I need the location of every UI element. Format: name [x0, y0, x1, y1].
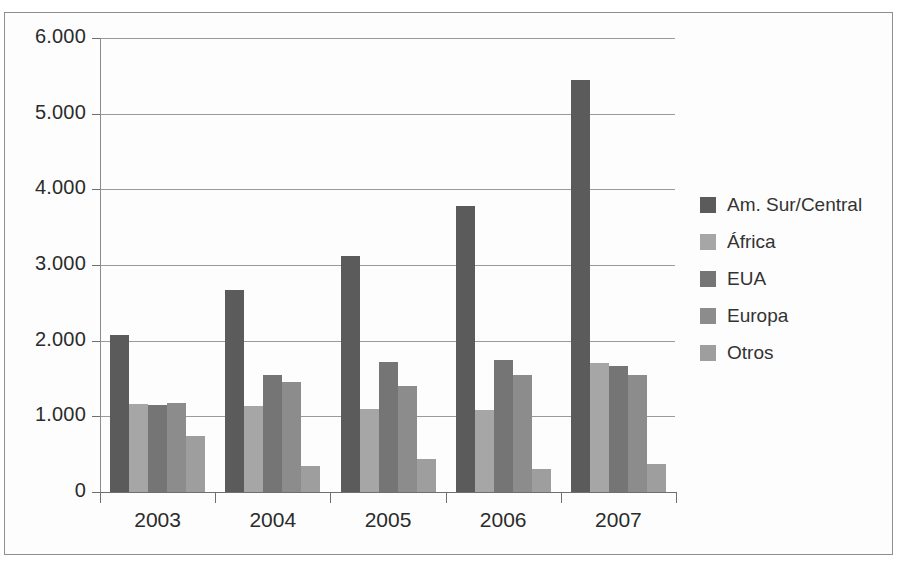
legend-swatch-icon — [700, 271, 716, 287]
x-tick-mark — [330, 492, 331, 503]
bar — [609, 366, 628, 492]
bar — [456, 206, 475, 492]
bar — [225, 290, 244, 492]
bar — [590, 363, 609, 492]
legend-label: Am. Sur/Central — [727, 194, 862, 216]
y-tick-label: 1.000 — [0, 403, 86, 426]
bar — [494, 360, 513, 492]
legend-label: Europa — [727, 305, 788, 327]
bar — [647, 464, 666, 492]
chart-figure: 01.0002.0003.0004.0005.0006.000 20032004… — [0, 0, 903, 565]
legend-swatch-icon — [700, 345, 716, 361]
x-tick-label: 2004 — [218, 508, 328, 532]
bar — [301, 466, 320, 492]
chart-legend: Am. Sur/CentralÁfricaEUAEuropaOtros — [700, 186, 890, 371]
y-tick-label: 2.000 — [0, 328, 86, 351]
bar — [628, 375, 647, 492]
legend-item: Am. Sur/Central — [700, 186, 890, 223]
legend-swatch-icon — [700, 308, 716, 324]
legend-item: Otros — [700, 334, 890, 371]
bar — [244, 406, 263, 492]
legend-swatch-icon — [700, 234, 716, 250]
x-tick-mark — [676, 492, 677, 503]
x-tick-label: 2007 — [563, 508, 673, 532]
legend-label: Otros — [727, 342, 773, 364]
bar — [110, 335, 129, 492]
bar — [398, 386, 417, 492]
bar — [417, 459, 436, 492]
legend-swatch-icon — [700, 197, 716, 213]
legend-item: Europa — [700, 297, 890, 334]
legend-item: África — [700, 223, 890, 260]
x-tick-mark — [446, 492, 447, 503]
bar — [167, 403, 186, 492]
bar — [513, 375, 532, 492]
bar — [341, 256, 360, 492]
bar — [360, 409, 379, 492]
legend-label: EUA — [727, 268, 766, 290]
legend-item: EUA — [700, 260, 890, 297]
bar — [379, 362, 398, 492]
x-tick-mark — [561, 492, 562, 503]
bar — [532, 469, 551, 492]
y-tick-label: 4.000 — [0, 176, 86, 199]
bar — [475, 410, 494, 492]
bar — [129, 404, 148, 492]
x-tick-label: 2006 — [448, 508, 558, 532]
bars-layer — [100, 38, 676, 492]
bar — [263, 375, 282, 492]
x-tick-label: 2005 — [333, 508, 443, 532]
x-tick-mark — [100, 492, 101, 503]
bar — [186, 436, 205, 492]
y-tick-label: 6.000 — [0, 25, 86, 48]
bar — [148, 405, 167, 492]
x-axis-line — [100, 492, 676, 493]
y-tick-label: 3.000 — [0, 252, 86, 275]
legend-label: África — [727, 231, 776, 253]
y-tick-label: 5.000 — [0, 101, 86, 124]
x-tick-mark — [215, 492, 216, 503]
bar — [571, 80, 590, 492]
bar — [282, 382, 301, 492]
y-tick-label: 0 — [0, 479, 86, 502]
x-tick-label: 2003 — [103, 508, 213, 532]
